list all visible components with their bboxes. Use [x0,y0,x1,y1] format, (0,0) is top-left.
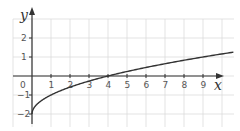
y-tick-label: −1 [17,90,30,100]
x-tick-label: 7 [163,80,169,90]
y-tick-label: 2 [21,33,27,43]
y-axis-arrow-icon [29,7,35,15]
y-tick-label: −2 [17,109,30,119]
function-graph: 12345678921−1−2 y x 0 [0,0,240,131]
x-tick-label: 2 [68,80,74,90]
x-tick-label: 1 [49,80,55,90]
x-tick-label: 4 [106,80,112,90]
y-tick-label: 1 [21,52,27,62]
x-tick-label: 5 [125,80,131,90]
x-axis-label: x [214,77,222,93]
y-axis [29,7,35,124]
x-tick-label: 8 [182,80,188,90]
origin-label: 0 [20,80,26,90]
x-tick-label: 9 [201,80,207,90]
y-axis-label: y [19,7,29,23]
x-tick-label: 6 [144,80,150,90]
